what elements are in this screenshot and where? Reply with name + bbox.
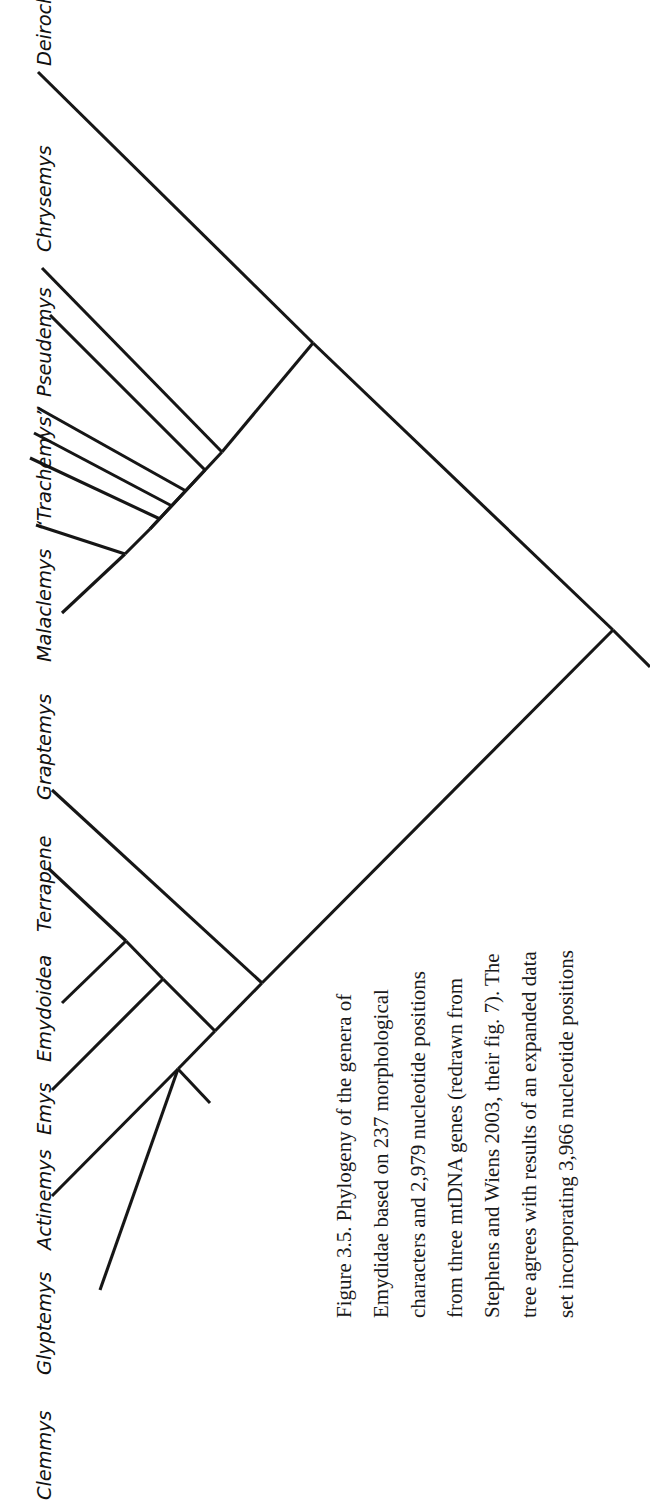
tip-label-graptemys: Graptemys [33,694,56,800]
tip-label-pseudemys: Pseudemys [33,287,56,397]
tip-label-emys: Emys [33,1083,56,1135]
caption-line-4: from three mtDNA genes (redrawn from [437,848,474,1318]
branch-pseudemys [50,315,205,470]
caption-line-6: tree agrees with results of an expanded … [511,848,548,1318]
caption-line-clipped [585,848,595,1318]
caption-line-1: Figure 3.5. Phylogeny of the genera of [326,848,363,1318]
figure-caption: Figure 3.5. Phylogeny of the genera of E… [326,848,595,1318]
caption-line-7: set incorporating 3,966 nucleotide posit… [548,848,585,1318]
branch-A-to-B [222,343,313,452]
tip-label-actinemys: Actinemys [33,1150,56,1250]
tip-label-clemmys: Clemmys [33,1411,56,1500]
branch-emys [62,941,126,1003]
branch-root-to-deirochelyinae [313,343,613,630]
branch-H-stub [178,1069,210,1103]
caption-line-2: Emydidae based on 237 morphological [363,848,400,1318]
caption-line-3: characters and 2,979 nucleotide position… [400,848,437,1318]
tip-label-emydoidea: Emydoidea [33,955,56,1062]
branch-C-to-D [125,529,150,554]
branch-clemmys [100,1069,178,1290]
branch-root-stem [613,630,650,667]
tip-label-chrysemys: Chrysemys [33,145,56,252]
branch-graptemys [62,554,125,613]
branch-F-to-H [178,1031,215,1069]
caption-line-5: Stephens and Wiens 2003, their fig. 7). … [474,848,511,1318]
branch-terrapene [52,790,262,983]
tip-label-terrapene: Terrapene [33,836,56,932]
branch-F-to-G [163,979,215,1031]
tip-label-glyptemys: Glyptemys [33,1272,56,1375]
branch-E-to-F [215,983,262,1031]
tip-label-deirochelys: Deirochelys [33,0,56,66]
branch-deirochelys [38,72,313,343]
branch-trachemys-1 [38,408,186,491]
tip-label-malaclemys: Malaclemys [33,549,56,662]
branch-emydoidea [48,868,126,941]
branch-glyptemys [52,1069,178,1196]
branch-G-to-I [126,941,163,979]
tip-label-trachemys: “Trachemys” [33,407,56,531]
